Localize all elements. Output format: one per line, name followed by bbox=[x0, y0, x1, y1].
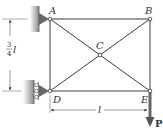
width-dimension: l bbox=[50, 95, 147, 115]
label-D: D bbox=[52, 94, 61, 105]
height-var: l bbox=[13, 44, 16, 55]
pin-support-A bbox=[30, 6, 49, 32]
label-B: B bbox=[144, 5, 152, 16]
label-A: A bbox=[48, 5, 56, 16]
node-C bbox=[98, 53, 102, 57]
label-C: C bbox=[96, 40, 104, 51]
width-var: l bbox=[98, 104, 101, 115]
roller-support-D bbox=[23, 80, 49, 104]
node-A bbox=[48, 17, 52, 21]
node-B bbox=[148, 17, 152, 21]
truss-diagram: A B C D E 3 4 l l P bbox=[0, 0, 163, 133]
height-frac-den: 4 bbox=[7, 50, 12, 58]
load-label: P bbox=[155, 118, 163, 129]
height-frac-num: 3 bbox=[7, 41, 11, 49]
node-D bbox=[48, 89, 52, 93]
label-E: E bbox=[140, 94, 149, 105]
